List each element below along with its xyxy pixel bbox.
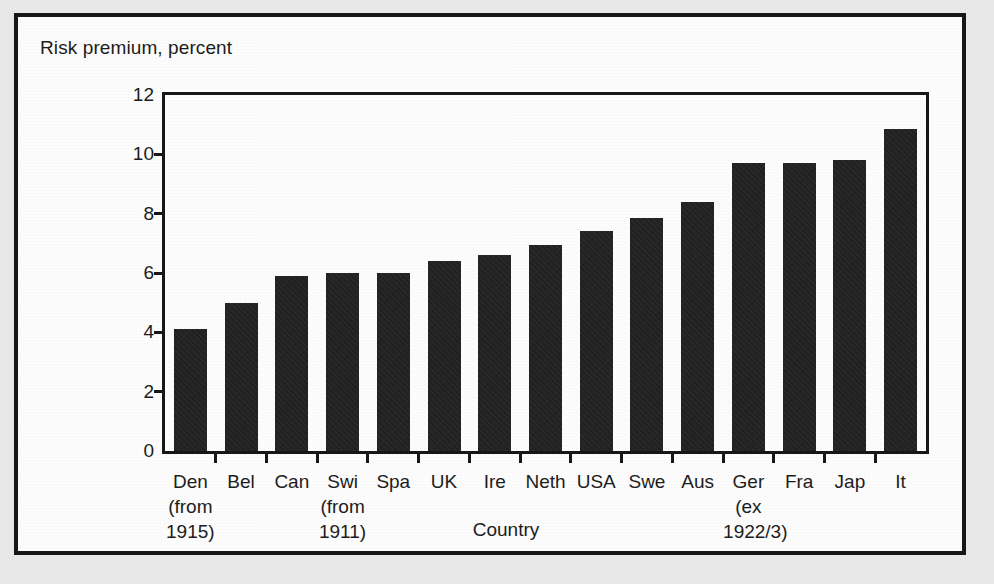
x-axis-tick-mark (772, 451, 775, 463)
category-name: Den (165, 469, 216, 494)
y-axis-tick-label: 8 (143, 203, 154, 225)
x-axis-category-label: Neth (520, 469, 571, 494)
bar (377, 273, 410, 451)
bar (783, 163, 816, 451)
x-axis-category-label: Can (266, 469, 317, 494)
bar (681, 202, 714, 451)
category-name: Jap (825, 469, 876, 494)
x-axis-category-label: UK (419, 469, 470, 494)
bar (884, 129, 917, 451)
y-axis-tick-label: 0 (143, 440, 154, 462)
bar (580, 231, 613, 451)
y-axis-caption: Risk premium, percent (40, 37, 232, 59)
x-axis-tick-mark (366, 451, 369, 463)
x-axis-tick-mark (519, 451, 522, 463)
category-note-line1: (ex (723, 494, 774, 519)
category-note-line1: (from (317, 494, 368, 519)
x-axis-category-label: Bel (216, 469, 267, 494)
category-note-line1: (from (165, 494, 216, 519)
category-name: Bel (216, 469, 267, 494)
category-name: Ger (723, 469, 774, 494)
x-axis-tick-mark (214, 451, 217, 463)
x-axis-tick-mark (468, 451, 471, 463)
x-axis-category-label: USA (571, 469, 622, 494)
category-name: Aus (672, 469, 723, 494)
x-axis-tick-mark (823, 451, 826, 463)
y-axis-tick-label: 6 (143, 262, 154, 284)
category-name: Neth (520, 469, 571, 494)
chart-frame: Risk premium, percent 024681012 Den(from… (14, 13, 966, 555)
plot-area: 024681012 (162, 92, 929, 454)
y-axis-tick-mark (154, 272, 165, 275)
category-name: Swe (622, 469, 673, 494)
x-axis-tick-mark (671, 451, 674, 463)
x-axis-category-label: Spa (368, 469, 419, 494)
x-axis-category-label: Jap (825, 469, 876, 494)
x-axis-category-label: Fra (774, 469, 825, 494)
y-axis-tick-label: 12 (133, 84, 154, 106)
bar (833, 160, 866, 451)
category-name: Swi (317, 469, 368, 494)
bar (529, 245, 562, 451)
x-axis-category-label: Aus (672, 469, 723, 494)
y-axis-tick-label: 2 (143, 381, 154, 403)
x-axis-tick-mark (316, 451, 319, 463)
category-name: USA (571, 469, 622, 494)
y-axis-tick-mark (154, 153, 165, 156)
figure-root: Risk premium, percent 024681012 Den(from… (0, 0, 994, 584)
category-name: Ire (469, 469, 520, 494)
bar (174, 329, 207, 451)
bar (630, 218, 663, 451)
y-axis-tick-mark (154, 331, 165, 334)
x-axis-tick-mark (265, 451, 268, 463)
bar (428, 261, 461, 451)
category-name: Spa (368, 469, 419, 494)
x-axis-tick-mark (620, 451, 623, 463)
y-axis-tick-label: 4 (143, 321, 154, 343)
bar (275, 276, 308, 451)
x-axis-category-label: Swe (622, 469, 673, 494)
x-axis-caption: Country (18, 519, 962, 541)
bar (732, 163, 765, 451)
category-name: UK (419, 469, 470, 494)
bar (326, 273, 359, 451)
x-axis-tick-mark (417, 451, 420, 463)
plot-canvas: 024681012 (165, 95, 926, 451)
y-axis-tick-label: 10 (133, 143, 154, 165)
bar (478, 255, 511, 451)
x-axis-category-label: Ire (469, 469, 520, 494)
y-axis-tick-mark (154, 212, 165, 215)
x-axis-category-label: It (875, 469, 926, 494)
category-name: Can (266, 469, 317, 494)
x-axis-tick-mark (874, 451, 877, 463)
category-name: It (875, 469, 926, 494)
x-axis-tick-labels: Den(from1915)BelCanSwi(from1911)SpaUKIre… (162, 469, 929, 559)
category-name: Fra (774, 469, 825, 494)
x-axis-tick-mark (569, 451, 572, 463)
bar (225, 303, 258, 451)
y-axis-tick-mark (154, 390, 165, 393)
x-axis-caption-text: Country (473, 519, 540, 540)
x-axis-tick-mark (722, 451, 725, 463)
